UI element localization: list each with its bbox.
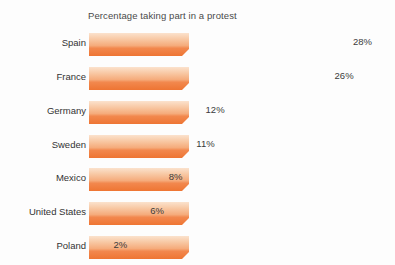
bar[interactable] [89, 236, 107, 259]
category-label: Poland [56, 240, 86, 251]
category-label: United States [29, 206, 86, 217]
bar-shape [89, 101, 189, 124]
value-label: 12% [206, 104, 225, 115]
category-label: Mexico [56, 172, 86, 183]
bar-row: United States 6% [0, 197, 395, 231]
bar[interactable] [89, 168, 163, 191]
value-label: 11% [196, 138, 214, 149]
bar[interactable] [89, 101, 200, 124]
bar-shape [89, 236, 189, 259]
category-label: Sweden [52, 139, 86, 150]
value-label: 6% [150, 205, 164, 216]
value-label: 8% [169, 171, 183, 182]
bar[interactable] [89, 202, 144, 225]
bar-row: Poland 2% [0, 231, 395, 265]
category-label: Spain [62, 37, 86, 48]
bar-row: Sweden 11% [0, 130, 395, 164]
bar-shape [89, 33, 189, 56]
bar-row: France 26% [0, 62, 395, 96]
bar[interactable] [89, 135, 190, 158]
chart-title: Percentage taking part in a protest [88, 10, 237, 21]
plot-area: Spain 28% France [0, 28, 395, 265]
bar-shape [89, 67, 189, 90]
value-label: 2% [113, 239, 127, 250]
bar[interactable] [89, 33, 347, 56]
value-label: 26% [335, 70, 354, 81]
value-label: 28% [353, 36, 372, 47]
bar-chart: Percentage taking part in a protest Spai… [0, 0, 395, 265]
bar-shape [89, 135, 189, 158]
bar-row: Mexico 8% [0, 163, 395, 197]
bar-row: Germany 12% [0, 96, 395, 130]
bar-shape [89, 202, 189, 225]
bar-row: Spain 28% [0, 28, 395, 62]
category-label: France [56, 71, 86, 82]
category-label: Germany [47, 105, 86, 116]
bar[interactable] [89, 67, 329, 90]
